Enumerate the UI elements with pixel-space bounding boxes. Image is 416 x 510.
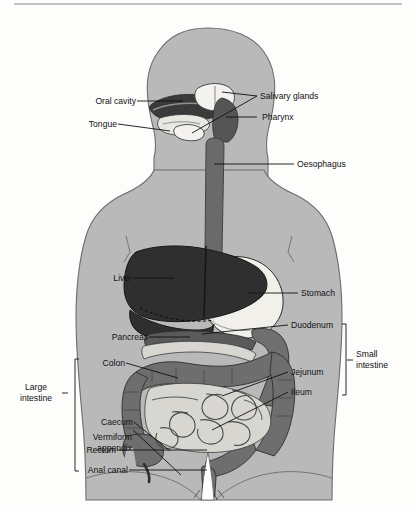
label-vermiform-appendix-line-1: Vermiform	[93, 432, 132, 442]
label-stomach: Stomach	[301, 288, 335, 298]
label-pancreas: Pancreas	[112, 332, 148, 342]
label-salivary-glands: Salivary glands	[260, 91, 318, 101]
label-oral-cavity: Oral cavity	[95, 96, 136, 106]
label-small-intestine-line-1: Small	[356, 349, 378, 359]
label-caecum: Caecum	[101, 417, 133, 427]
organ-oesophagus	[205, 138, 224, 266]
label-tongue: Tongue	[89, 119, 117, 129]
label-small-intestine-line-2: intestine	[356, 360, 388, 370]
label-pharynx: Pharynx	[262, 112, 294, 122]
digestive-system-figure: Oral cavity Tongue Liver Pancreas Colon …	[0, 0, 416, 510]
label-large-intestine-line-1: Large	[25, 382, 47, 392]
label-colon: Colon	[103, 358, 126, 368]
label-liver: Liver	[113, 273, 132, 283]
label-anal-canal: Anal canal	[88, 465, 128, 475]
label-rectum: Rectum	[86, 445, 116, 455]
label-large-intestine-line-2: intestine	[20, 393, 52, 403]
label-oesophagus: Oesophagus	[297, 159, 346, 169]
label-duodenum: Duodenum	[291, 320, 333, 330]
label-ileum: Ileum	[291, 387, 312, 397]
label-jejunum: Jejunum	[291, 367, 323, 377]
